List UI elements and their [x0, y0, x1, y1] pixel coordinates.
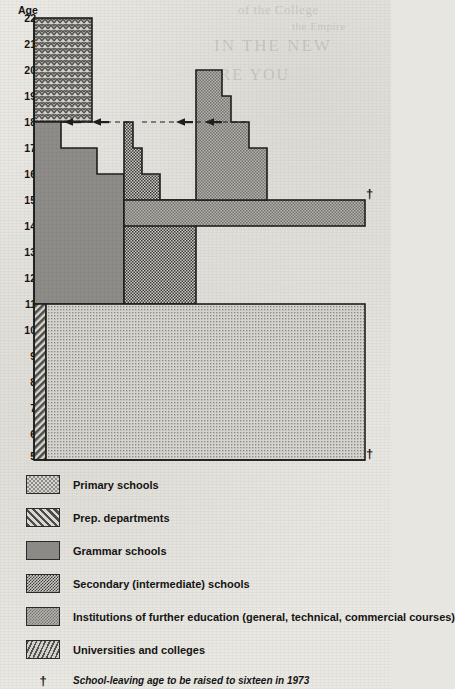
legend-label-prep-departments: Prep. departments	[73, 512, 170, 524]
legend-item-further-education[interactable]: Institutions of further education (gener…	[26, 607, 455, 626]
chart-legend: Primary schools Prep. departments Gramma…	[0, 470, 391, 689]
grammar-schools-swatch	[26, 541, 60, 560]
dagger-icon: †	[26, 673, 60, 688]
legend-item-grammar-schools[interactable]: Grammar schools	[26, 541, 167, 560]
series-primary-schools	[46, 304, 365, 460]
legend-item-universities[interactable]: Universities and colleges	[26, 640, 205, 659]
legend-item-secondary-schools[interactable]: Secondary (intermediate) schools	[26, 574, 250, 593]
series-prep-departments	[34, 304, 46, 460]
legend-label-secondary-schools: Secondary (intermediate) schools	[73, 578, 250, 590]
legend-label-primary-schools: Primary schools	[73, 479, 159, 491]
universities-swatch	[26, 640, 60, 659]
dagger-marker-age-15: †	[366, 186, 373, 201]
legend-item-prep-departments[interactable]: Prep. departments	[26, 508, 170, 527]
legend-footnote: † School-leaving age to be raised to six…	[26, 673, 309, 688]
legend-label-further-education: Institutions of further education (gener…	[73, 611, 455, 623]
secondary-schools-swatch	[26, 574, 60, 593]
education-age-chart: Age 22 21 20 19 18 17 16 15 14 13 12 11 …	[0, 0, 391, 470]
legend-label-grammar-schools: Grammar schools	[73, 545, 167, 557]
series-grammar-schools	[34, 122, 124, 304]
dagger-marker-age-5: †	[366, 446, 373, 461]
primary-schools-swatch	[26, 475, 60, 494]
series-institutions-of-further-education	[124, 70, 365, 226]
legend-footnote-text: School-leaving age to be raised to sixte…	[73, 675, 309, 686]
legend-item-primary-schools[interactable]: Primary schools	[26, 475, 159, 494]
further-education-swatch	[26, 607, 60, 626]
series-universities-and-colleges	[34, 18, 92, 122]
chart-svg	[0, 0, 391, 470]
legend-label-universities: Universities and colleges	[73, 644, 205, 656]
prep-departments-swatch	[26, 508, 60, 527]
